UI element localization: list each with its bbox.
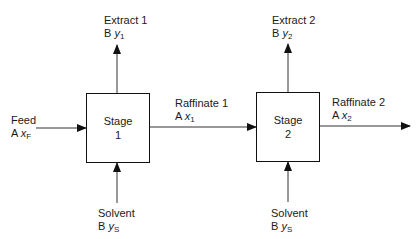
raffinate-1-label: Raffinate 1 A x1 bbox=[175, 97, 228, 126]
stage-1-box: Stage 1 bbox=[86, 93, 150, 163]
solvent-2-composition: B yS bbox=[271, 220, 308, 236]
raffinate-2-label: Raffinate 2 A x2 bbox=[332, 96, 385, 125]
solvent-1-label: Solvent B yS bbox=[98, 207, 135, 236]
stage-1-number: 1 bbox=[115, 128, 121, 142]
extract-2-label: Extract 2 B y2 bbox=[272, 14, 315, 43]
raffinate-1-name: Raffinate 1 bbox=[175, 97, 228, 110]
solvent-1-composition: B yS bbox=[98, 220, 135, 236]
feed-composition: A xF bbox=[11, 127, 36, 143]
feed-label: Feed A xF bbox=[11, 114, 36, 143]
raffinate-1-composition: A x1 bbox=[175, 110, 228, 126]
solvent-2-name: Solvent bbox=[271, 207, 308, 220]
raffinate-2-composition: A x2 bbox=[332, 109, 385, 125]
extract-1-name: Extract 1 bbox=[104, 14, 147, 27]
extract-1-composition: B y1 bbox=[104, 27, 147, 43]
stage-2-title: Stage bbox=[274, 113, 303, 127]
stage-2-number: 2 bbox=[285, 127, 291, 141]
stage-1-title: Stage bbox=[104, 114, 133, 128]
raffinate-2-name: Raffinate 2 bbox=[332, 96, 385, 109]
feed-name: Feed bbox=[11, 114, 36, 127]
extract-1-label: Extract 1 B y1 bbox=[104, 14, 147, 43]
solvent-1-name: Solvent bbox=[98, 207, 135, 220]
stage-2-box: Stage 2 bbox=[256, 92, 320, 162]
solvent-2-label: Solvent B yS bbox=[271, 207, 308, 236]
extract-2-name: Extract 2 bbox=[272, 14, 315, 27]
extract-2-composition: B y2 bbox=[272, 27, 315, 43]
